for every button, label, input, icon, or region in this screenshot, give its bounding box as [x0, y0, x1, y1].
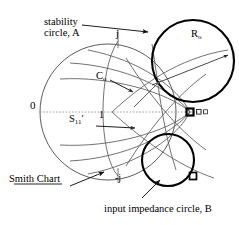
- j-negative-label: -j: [115, 173, 121, 184]
- smith-chart-figure: stability circle, A Ro Co S11′ 1 0 j -j …: [0, 0, 239, 225]
- s11-prime-label: S11′: [69, 113, 84, 126]
- radius-Ro-leader: [134, 81, 160, 107]
- center-Co-symbol: C: [96, 70, 103, 81]
- radius-Ro-arrow: [152, 55, 228, 85]
- Co-label-arrow: [110, 80, 133, 92]
- s11-subscript: 11: [75, 118, 82, 126]
- stability-circle-label-line1: stability: [44, 16, 80, 27]
- unit-value-label: 1: [99, 110, 104, 121]
- center-Co-subscript: o: [103, 75, 107, 83]
- s11-prime-mark: ′: [82, 113, 84, 124]
- diagram-canvas: [0, 0, 239, 225]
- input-impedance-label-arrow: [142, 180, 160, 198]
- reactance-arc-8: [112, 112, 214, 178]
- radius-Ro-label: Ro: [191, 28, 202, 41]
- origin-value-label: 0: [30, 100, 36, 112]
- radius-Ro-symbol: R: [191, 28, 198, 39]
- center-Co-label: Co: [96, 70, 107, 83]
- stability-circle-label-line2: circle, A: [44, 27, 80, 38]
- j-positive-label: j: [116, 29, 119, 40]
- input-impedance-label: input impedance circle, B: [104, 203, 212, 214]
- radius-Ro-subscript: o: [198, 33, 202, 41]
- reactance-arc-7: [112, 50, 228, 112]
- stability-label-arrow: [82, 25, 148, 32]
- stability-circle-label: stability circle, A: [44, 16, 80, 38]
- smith-chart-label: Smith Chart: [9, 173, 60, 184]
- reactance-arc-group: [60, 41, 228, 178]
